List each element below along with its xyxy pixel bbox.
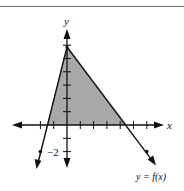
- left-line-arrow-icon: [35, 159, 42, 169]
- x-axis-left-arrow-icon: [12, 122, 22, 129]
- y-axis-top-arrow-icon: [64, 29, 71, 39]
- f-label: y = f(x): [135, 171, 167, 183]
- shaded-region: [47, 47, 127, 125]
- graph: y x −2 y = f(x): [0, 0, 184, 191]
- y-axis-label: y: [63, 15, 69, 27]
- f-line-point: [145, 150, 149, 154]
- apex-point: [65, 45, 68, 48]
- x-axis-right-arrow-icon: [154, 122, 164, 129]
- x-axis-label: x: [166, 119, 172, 131]
- y-axis-bottom-arrow-icon: [64, 158, 71, 168]
- left-line-point: [39, 150, 43, 154]
- tick-label-neg2: −2: [47, 146, 59, 158]
